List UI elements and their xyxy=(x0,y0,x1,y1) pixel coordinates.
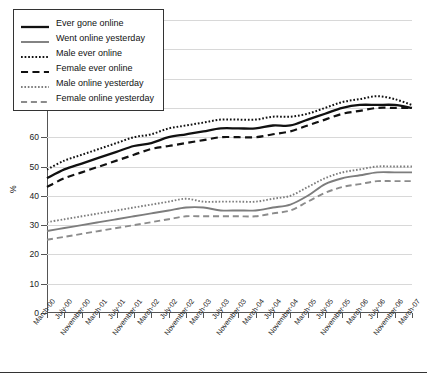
legend-item[interactable]: Female ever online xyxy=(20,60,154,75)
series-line xyxy=(47,105,412,178)
y-axis-tick-label: 40 xyxy=(30,191,39,201)
y-axis-tick-label: 50 xyxy=(30,162,39,172)
legend-item-label: Female online yesterday xyxy=(56,93,154,103)
legend-item[interactable]: Ever gone online xyxy=(20,15,154,30)
legend-swatch-icon xyxy=(20,18,50,28)
legend-item-label: Female ever online xyxy=(56,63,133,73)
legend-swatch-icon xyxy=(20,78,50,88)
chart-figure: % 0102030405060708090100 March-00July-00… xyxy=(0,0,427,384)
legend-item[interactable]: Male ever online xyxy=(20,45,154,60)
legend-swatch-icon xyxy=(20,33,50,43)
y-axis-tick-label: 10 xyxy=(30,279,39,289)
y-axis-tick-label: 30 xyxy=(30,220,39,230)
y-axis-tick-label: 20 xyxy=(30,249,39,259)
y-axis-title: % xyxy=(8,185,18,193)
chart-legend: Ever gone onlineWent online yesterdayMal… xyxy=(13,9,164,111)
legend-item[interactable]: Male online yesterday xyxy=(20,75,154,90)
legend-item[interactable]: Went online yesterday xyxy=(20,30,154,45)
legend-item-label: Male ever online xyxy=(56,48,122,58)
legend-swatch-icon xyxy=(20,48,50,58)
legend-item-label: Went online yesterday xyxy=(56,33,145,43)
legend-item-label: Male online yesterday xyxy=(56,78,144,88)
legend-swatch-icon xyxy=(20,93,50,103)
legend-item-label: Ever gone online xyxy=(56,18,124,28)
y-axis-tick-label: 60 xyxy=(30,132,39,142)
series-line xyxy=(47,166,412,222)
bottom-rule xyxy=(0,372,427,373)
legend-item[interactable]: Female online yesterday xyxy=(20,90,154,105)
legend-swatch-icon xyxy=(20,63,50,73)
